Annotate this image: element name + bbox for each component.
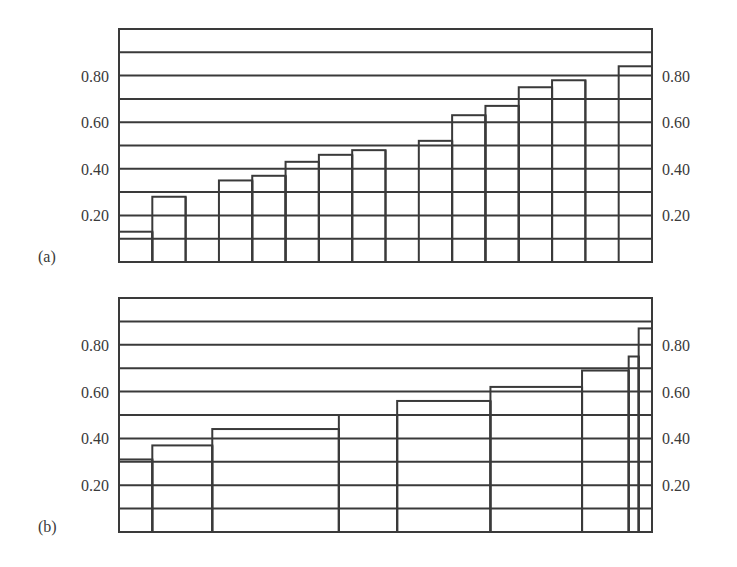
y-tick-label-right: 0.20: [662, 207, 690, 224]
y-tick-label-left: 0.80: [81, 68, 109, 85]
y-tick-label-right: 0.60: [662, 114, 690, 131]
histogram-bar: [152, 197, 185, 262]
y-tick-label-left: 0.80: [81, 337, 109, 354]
y-tick-label-left: 0.60: [81, 114, 109, 131]
histogram-bar: [639, 328, 652, 532]
histogram-bar: [119, 232, 152, 262]
histogram-bar: [319, 155, 352, 262]
histogram-bar: [397, 401, 490, 532]
histogram-bar: [339, 415, 397, 532]
panel-label-a: (a): [38, 248, 56, 266]
figure-canvas: 0.200.200.400.400.600.600.800.80 0.200.2…: [0, 0, 737, 567]
y-tick-label-left: 0.40: [81, 430, 109, 447]
chart-panel-a: 0.200.200.400.400.600.600.800.80: [81, 29, 690, 262]
y-tick-label-right: 0.40: [662, 430, 690, 447]
y-tick-label-left: 0.20: [81, 207, 109, 224]
histogram-bar: [452, 115, 485, 262]
chart-panel-b: 0.200.200.400.400.600.600.800.80: [81, 298, 690, 532]
histogram-bar: [490, 387, 582, 532]
histogram-bar: [119, 459, 152, 532]
histogram-bar: [252, 176, 285, 262]
y-tick-label-right: 0.80: [662, 337, 690, 354]
histogram-bar: [352, 150, 385, 262]
histogram-bar: [286, 162, 319, 262]
y-tick-label-left: 0.20: [81, 477, 109, 494]
histogram-bar: [212, 429, 339, 532]
y-tick-label-right: 0.80: [662, 68, 690, 85]
histogram-bar: [552, 80, 585, 262]
panel-label-b: (b): [38, 518, 57, 536]
histogram-bar: [619, 66, 652, 262]
histogram-bar: [419, 141, 452, 262]
y-tick-label-left: 0.40: [81, 161, 109, 178]
histogram-bar: [152, 445, 212, 532]
histogram-bar: [519, 87, 552, 262]
y-tick-label-right: 0.40: [662, 161, 690, 178]
y-tick-label-right: 0.60: [662, 384, 690, 401]
y-tick-label-right: 0.20: [662, 477, 690, 494]
y-tick-label-left: 0.60: [81, 384, 109, 401]
histogram-bar: [629, 357, 639, 533]
